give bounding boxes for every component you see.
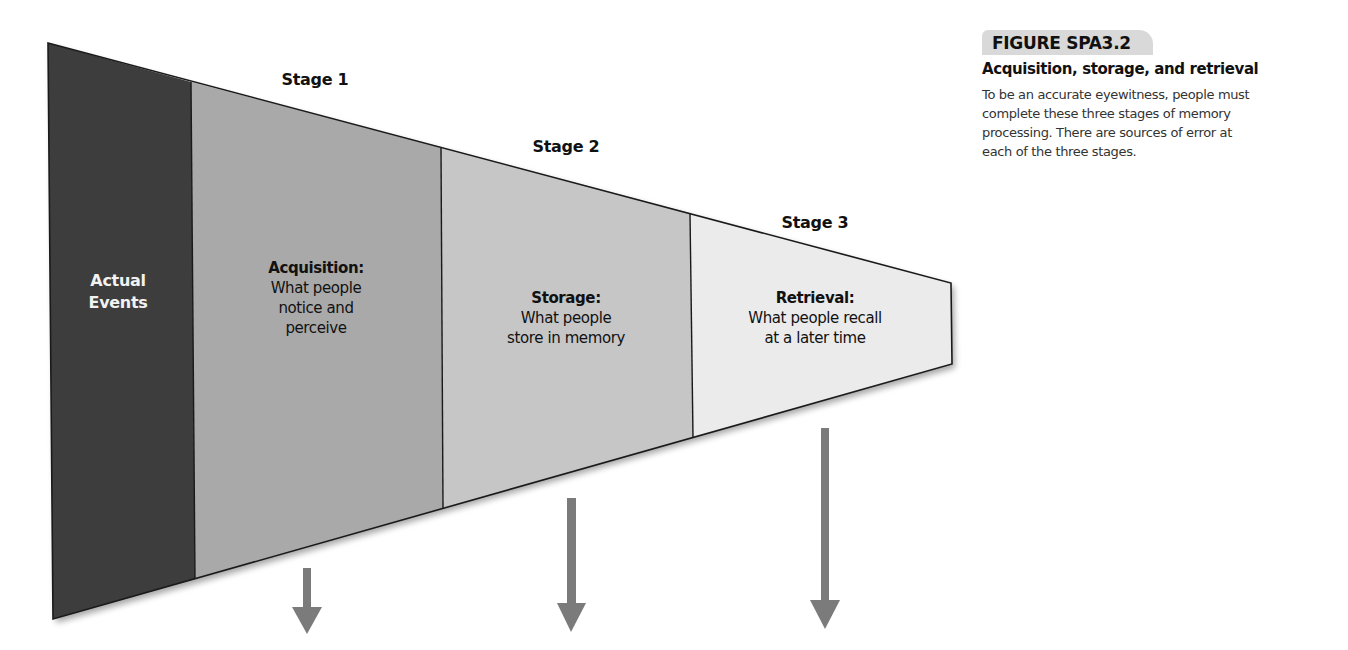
- retrieval-line: at a later time: [735, 328, 895, 348]
- acquisition-line: notice and: [236, 298, 396, 318]
- caption-line: complete these three stages of memory: [982, 104, 1348, 123]
- storage-heading: Storage:: [486, 288, 646, 308]
- actual-events-line: Actual: [68, 270, 168, 292]
- acquisition-block: Acquisition: What people notice and perc…: [236, 258, 396, 338]
- arrow-down-icon: [557, 498, 586, 632]
- caption-line: To be an accurate eyewitness, people mus…: [982, 85, 1348, 104]
- storage-line: store in memory: [486, 328, 646, 348]
- stage-1-title: Stage 1: [255, 70, 375, 89]
- stage-2-title: Stage 2: [506, 137, 626, 156]
- acquisition-line: What people: [236, 278, 396, 298]
- figure-title: Acquisition, storage, and retrieval: [982, 60, 1348, 78]
- actual-events-panel: [48, 43, 195, 619]
- storage-block: Storage: What people store in memory: [486, 288, 646, 348]
- caption-line: each of the three stages.: [982, 142, 1348, 161]
- retrieval-heading: Retrieval:: [735, 288, 895, 308]
- figure-number-badge: FIGURE SPA3.2: [982, 30, 1153, 55]
- acquisition-heading: Acquisition:: [236, 258, 396, 278]
- retrieval-line: What people recall: [735, 308, 895, 328]
- stage-3-title: Stage 3: [755, 213, 875, 232]
- figure-caption: FIGURE SPA3.2 Acquisition, storage, and …: [982, 30, 1348, 161]
- arrow-down-icon: [292, 568, 322, 634]
- actual-events-label: Actual Events: [68, 270, 168, 314]
- retrieval-block: Retrieval: What people recall at a later…: [735, 288, 895, 348]
- storage-line: What people: [486, 308, 646, 328]
- actual-events-line: Events: [68, 292, 168, 314]
- arrow-down-icon: [810, 428, 840, 629]
- acquisition-line: perceive: [236, 318, 396, 338]
- caption-line: processing. There are sources of error a…: [982, 123, 1348, 142]
- figure-description: To be an accurate eyewitness, people mus…: [982, 85, 1348, 161]
